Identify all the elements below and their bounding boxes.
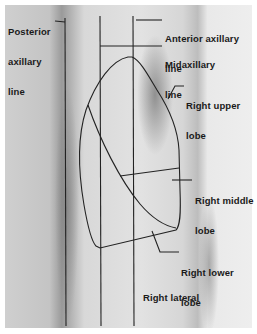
right-middle-lobe-label: Right middle lobe (195, 176, 254, 246)
label-line: lobe (186, 131, 240, 141)
view-label: Right lateral (143, 293, 199, 303)
lower-lobe-leader (152, 231, 179, 252)
label-line: Right middle (195, 196, 254, 206)
midaxillary-line (100, 16, 101, 326)
right-lower-lobe-label: Right lower lobe (181, 248, 234, 318)
label-line: Midaxillary (165, 60, 215, 70)
label-line: Right lower (181, 268, 234, 278)
posterior-axillary-label: Posterior axillary line (8, 7, 51, 107)
posterior-axillary-line (65, 18, 66, 326)
oblique-fissure (88, 105, 176, 228)
horizontal-fissure (120, 168, 179, 176)
label-line: Right upper (186, 101, 240, 111)
right-upper-lobe-label: Right upper lobe (186, 81, 240, 151)
anterior-axillary-line (133, 16, 134, 326)
label-line: axillary (8, 57, 51, 67)
label-line: line (8, 87, 51, 97)
posterior-leader (55, 21, 65, 22)
label-line: lobe (195, 226, 254, 236)
label-line: Posterior (8, 27, 51, 37)
